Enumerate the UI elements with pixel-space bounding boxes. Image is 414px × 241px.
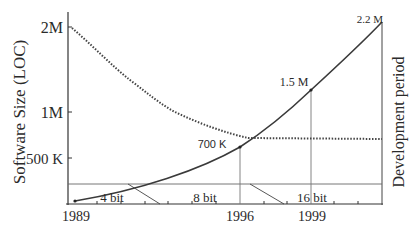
x-label-1989: 1989 xyxy=(62,209,90,224)
point-1989 xyxy=(73,199,76,202)
era-divider-4-8 xyxy=(128,184,160,204)
software-size-curve xyxy=(75,22,382,201)
chart: Software Size (LOC) 2M 1M 500 K 1989 199… xyxy=(0,0,414,241)
x-label-1996: 1996 xyxy=(226,209,254,224)
point-1-5m xyxy=(309,88,312,91)
development-period-curve xyxy=(72,28,382,139)
era-label-4bit: 4 bit xyxy=(100,190,124,205)
y-tick-label-2m: 2M xyxy=(41,19,63,36)
era-label-8bit: 8 bit xyxy=(193,190,217,205)
annotation-700k: 700 K xyxy=(198,138,227,150)
x-label-1999: 1999 xyxy=(298,209,326,224)
era-divider-8-16 xyxy=(250,184,284,204)
y-tick-label-1m: 1M xyxy=(41,104,63,121)
y-tick-label-500k: 500 K xyxy=(26,151,63,167)
right-axis-title: Development period xyxy=(390,56,408,187)
era-label-16bit: 16 bit xyxy=(297,190,327,205)
annotation-1-5m: 1.5 M xyxy=(280,75,309,89)
point-700k xyxy=(238,145,241,148)
annotation-2-2m: 2.2 M xyxy=(357,13,384,25)
